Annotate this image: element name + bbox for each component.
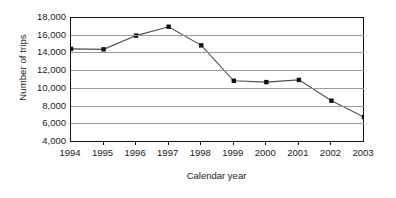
data-point-marker <box>362 115 364 119</box>
x-tick-mark <box>135 141 136 145</box>
x-axis-tick-labels: 1994199519961997199819992000200120022003 <box>70 148 363 162</box>
gridline <box>71 106 364 107</box>
data-point-marker <box>329 99 333 103</box>
chart-figure: Number of trips 18,00016,00014,00012,000… <box>0 0 396 198</box>
gridline <box>71 35 364 36</box>
gridline <box>71 70 364 71</box>
x-tick-mark <box>168 141 169 145</box>
data-point-marker <box>199 43 203 47</box>
y-tick-label: 18,000 <box>18 12 66 22</box>
y-tick-label: 8,000 <box>18 101 66 111</box>
data-point-marker <box>71 47 73 51</box>
x-tick-mark <box>200 141 201 145</box>
x-tick-mark <box>330 141 331 145</box>
plot-area <box>70 17 364 142</box>
gridline <box>71 52 364 53</box>
y-tick-label: 6,000 <box>18 119 66 129</box>
y-tick-label: 16,000 <box>18 30 66 40</box>
data-point-marker <box>101 47 105 51</box>
gridline <box>71 123 364 124</box>
gridline <box>71 88 364 89</box>
y-tick-label: 12,000 <box>18 65 66 75</box>
data-point-marker <box>166 25 170 29</box>
data-line <box>71 27 364 117</box>
x-tick-mark <box>265 141 266 145</box>
x-tick-label: 2003 <box>343 148 383 158</box>
data-point-marker <box>297 78 301 82</box>
y-tick-label: 4,000 <box>18 136 66 146</box>
x-tick-mark <box>233 141 234 145</box>
x-tick-mark <box>298 141 299 145</box>
y-axis-tick-labels: 18,00016,00014,00012,00010,0008,0006,000… <box>18 11 66 143</box>
x-tick-mark <box>103 141 104 145</box>
x-axis-title: Calendar year <box>70 170 363 181</box>
y-tick-label: 14,000 <box>18 48 66 58</box>
y-tick-label: 10,000 <box>18 83 66 93</box>
data-point-marker <box>232 79 236 83</box>
data-point-marker <box>264 80 268 84</box>
